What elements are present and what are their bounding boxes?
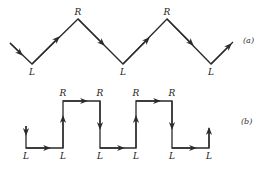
vertex-label-l: L (205, 151, 212, 161)
vertex-label-l: L (132, 151, 139, 161)
zigzag-path-a (10, 19, 233, 64)
arrow-icons-b (26, 101, 209, 148)
vertex-labels-a: LRLRL (28, 7, 214, 77)
diagram-b: LLRRLLRRLL (b) (22, 88, 252, 161)
vertex-label-r: R (74, 7, 82, 17)
square-wave-path-b (26, 101, 209, 148)
vertex-label-r: R (96, 88, 104, 98)
vertex-label-l: L (119, 67, 126, 77)
zigzag-diagrams: LRLRL (a) LLRRLLRRLL (b) (0, 0, 263, 169)
vertex-label-r: R (168, 88, 176, 98)
vertex-label-l: L (28, 67, 35, 77)
diagram-a: LRLRL (a) (10, 7, 254, 77)
diagram-a-tag: (a) (243, 36, 254, 45)
vertex-label-l: L (96, 151, 103, 161)
vertex-label-l: L (22, 151, 29, 161)
arrow-icons-a (10, 19, 229, 64)
vertex-label-r: R (163, 7, 171, 17)
vertex-label-l: L (168, 151, 175, 161)
vertex-label-l: L (59, 151, 66, 161)
diagram-b-tag: (b) (241, 117, 252, 126)
vertex-label-l: L (207, 67, 214, 77)
vertex-label-r: R (59, 88, 67, 98)
vertex-label-r: R (132, 88, 140, 98)
vertex-labels-b: LLRRLLRRLL (22, 88, 212, 161)
